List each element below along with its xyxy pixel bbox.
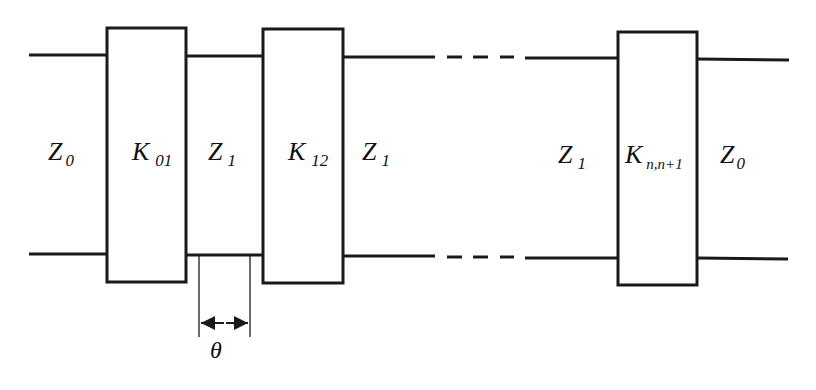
diagram-svg: Z0 K01 Z1 K12 Z1 Z1 Kn,n+1 Z0 θ: [0, 0, 816, 390]
label-z0-left: Z0: [48, 137, 74, 170]
theta-dimension: [199, 255, 250, 337]
label-z1-c: Z1: [558, 140, 586, 173]
line-z0-right-bottom: [697, 258, 788, 259]
line-z0-right-top: [697, 59, 789, 60]
label-theta: θ: [210, 337, 222, 363]
filter-diagram: Z0 K01 Z1 K12 Z1 Z1 Kn,n+1 Z0 θ: [0, 0, 816, 390]
label-z1-b: Z1: [362, 137, 390, 170]
label-z1-a: Z1: [208, 137, 236, 170]
label-z0-right: Z0: [720, 140, 745, 173]
ellipsis-dashes: [447, 57, 514, 257]
